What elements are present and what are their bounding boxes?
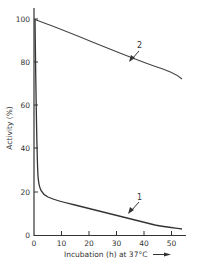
chart-canvas: 100 80 60 40 20 0 0 10 20 30 40 50 Incub… xyxy=(0,0,201,269)
x-tick-20: 20 xyxy=(84,239,94,248)
x-tick-0: 0 xyxy=(32,239,37,248)
curve-1-label: 1 xyxy=(137,193,142,202)
x-tick-labels: 0 10 20 30 40 50 xyxy=(32,239,177,248)
curve-2-label: 2 xyxy=(137,41,142,50)
x-tick-40: 40 xyxy=(139,239,149,248)
x-axis-arrow-icon xyxy=(153,253,171,257)
curve-1 xyxy=(35,19,182,229)
x-tick-50: 50 xyxy=(167,239,177,248)
curve-2 xyxy=(35,20,182,80)
x-axis-title: Incubation (h) at 37°C xyxy=(64,250,147,259)
x-tick-10: 10 xyxy=(57,239,67,248)
y-tick-labels: 100 80 60 40 20 0 xyxy=(16,15,31,240)
y-tick-20: 20 xyxy=(20,188,30,197)
y-tick-100: 100 xyxy=(16,15,31,24)
y-tick-80: 80 xyxy=(20,58,30,67)
curve-1-arrow-icon xyxy=(128,202,139,214)
x-ticks xyxy=(62,231,172,235)
y-axis-title: Activity (%) xyxy=(5,106,14,149)
y-tick-40: 40 xyxy=(20,144,30,153)
y-tick-60: 60 xyxy=(20,101,30,110)
y-tick-0: 0 xyxy=(25,231,30,240)
x-tick-30: 30 xyxy=(112,239,122,248)
